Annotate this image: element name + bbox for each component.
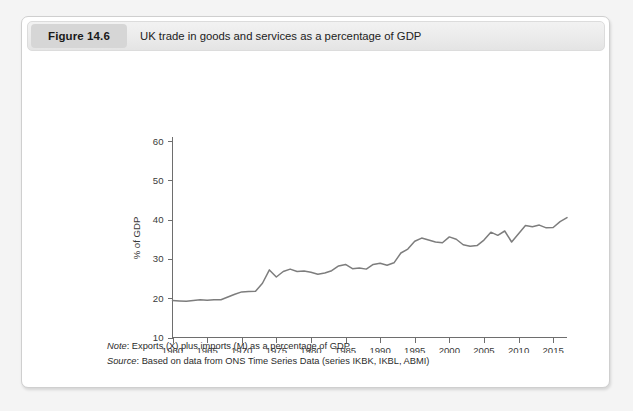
figure-notes: Note: Exports (X) plus imports (M) as a … — [107, 339, 587, 368]
y-axis-tick-label: 40 — [153, 214, 164, 225]
note-text: : Exports (X) plus imports (M) as a perc… — [127, 341, 350, 351]
line-chart-svg: 102030405060 % of GDP 196019651970197519… — [22, 53, 609, 353]
y-axis-title: % of GDP — [131, 217, 142, 260]
chart-plot-area: 102030405060 % of GDP 196019651970197519… — [22, 53, 609, 353]
figure-card: Figure 14.6 UK trade in goods and servic… — [21, 16, 610, 388]
trade-percentage-line — [173, 218, 568, 302]
y-axis-tick-labels: 102030405060 — [153, 136, 164, 344]
source-row: Source: Based on data from ONS Time Seri… — [107, 354, 587, 369]
y-axis-ticks — [168, 142, 173, 339]
note-row: Note: Exports (X) plus imports (M) as a … — [107, 339, 587, 354]
y-axis-tick-label: 20 — [153, 293, 164, 304]
figure-header: Figure 14.6 UK trade in goods and servic… — [27, 21, 605, 51]
y-axis-tick-label: 50 — [153, 175, 164, 186]
figure-title: UK trade in goods and services as a perc… — [140, 22, 421, 50]
y-axis-tick-label: 30 — [153, 253, 164, 264]
source-text: : Based on data from ONS Time Series Dat… — [136, 356, 429, 366]
figure-number-badge: Figure 14.6 — [31, 24, 127, 48]
page-background: Figure 14.6 UK trade in goods and servic… — [0, 0, 633, 411]
y-axis-group: 102030405060 % of GDP — [131, 136, 173, 344]
source-label: Source — [107, 356, 136, 366]
y-axis-tick-label: 60 — [153, 136, 164, 147]
note-label: Note — [107, 341, 127, 351]
